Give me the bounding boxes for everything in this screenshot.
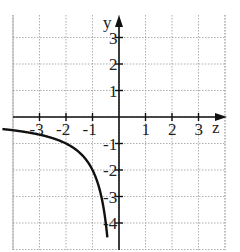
x-axis-label: z [212,118,220,137]
y-tick-label: 2 [109,55,118,74]
y-tick-label: -3 [103,188,117,207]
tick-labels: -3-2-1123321-1-2-3-4 [30,29,204,234]
y-tick-label: -2 [103,161,117,180]
x-tick-label: -1 [83,120,97,139]
y-axis-label: y [103,13,112,32]
y-tick-label: -1 [103,135,117,154]
x-tick-label: 1 [142,120,151,139]
function-plot: -3-2-1123321-1-2-3-4 z y [0,0,240,252]
x-tick-label: 3 [195,120,204,139]
x-tick-label: 2 [168,120,177,139]
y-tick-label: 1 [109,82,118,101]
function-curve [2,129,107,237]
y-axis-arrow-icon [115,15,123,27]
x-tick-label: -2 [56,120,70,139]
